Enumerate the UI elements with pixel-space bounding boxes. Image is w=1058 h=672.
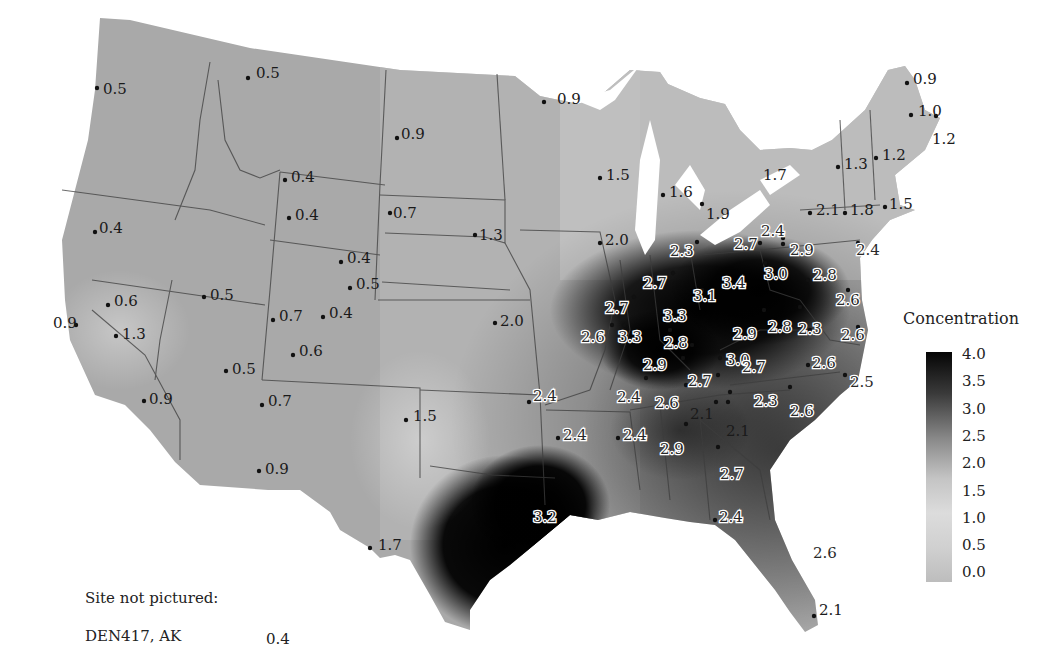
site-value-label: 0.5 [232,360,256,378]
site-value-label: 0.7 [393,204,417,222]
colorbar-tick-label: 3.0 [962,400,986,418]
site-dot [368,546,372,550]
colorbar-tick-label: 0.0 [962,563,986,581]
site-dot [622,323,626,327]
site-value-label: 2.0 [500,312,524,330]
site-value-label: 2.7 [643,274,667,292]
legend-title: Concentration [903,309,1019,328]
site-dot [527,400,531,404]
site-value-label: 1.5 [413,407,437,425]
site-value-label: 2.3 [798,320,822,338]
site-dot [291,353,295,357]
site-value-label: 2.3 [670,242,694,260]
site-dot [493,321,497,325]
site-dot [718,356,722,360]
site-dot [883,205,887,209]
site-value-label: 0.4 [99,219,123,237]
site-not-pictured-value: 0.4 [266,630,290,648]
site-dot [788,385,792,389]
site-dot [202,295,206,299]
site-dot [616,436,620,440]
site-value-label: 2.5 [850,373,874,391]
site-dot [695,240,699,244]
colorbar-tick-label: 2.5 [962,427,986,445]
site-value-label: 1.8 [850,201,874,219]
site-value-label: 3.2 [533,508,557,526]
site-dot [836,165,840,169]
colorbar-tick-label: 1.5 [962,482,986,500]
site-dot [95,86,99,90]
colorbar-tick-label: 0.5 [962,536,986,554]
site-value-label: 1.3 [844,155,868,173]
site-value-label: 2.9 [643,356,667,374]
colorbar [926,352,952,582]
site-value-label: 1.5 [889,195,913,213]
heatmap-fill [0,0,1058,672]
site-value-label: 2.0 [605,231,629,249]
site-dot [114,334,118,338]
site-value-label: 2.4 [533,387,557,405]
site-value-label: 0.4 [329,304,353,322]
site-value-label: 2.6 [812,354,836,372]
site-dot [661,193,665,197]
site-dot [542,100,546,104]
site-value-label: 3.3 [618,328,642,346]
site-value-label: 1.7 [763,166,787,184]
site-dot [287,216,291,220]
site-value-label: 2.7 [734,235,758,253]
site-dot [909,113,913,117]
site-value-label: 2.4 [719,508,743,526]
site-value-label: 2.4 [623,426,647,444]
site-dot [404,418,408,422]
site-dot [260,403,264,407]
site-dot [798,305,802,309]
site-dot [714,400,718,404]
site-value-label: 2.9 [790,241,814,259]
us-map-svg: 0.50.50.90.90.40.40.70.41.30.40.50.60.91… [0,0,1058,672]
site-dot [806,278,810,282]
site-value-label: 2.4 [761,222,785,240]
colorbar-tick-label: 1.0 [962,509,986,527]
site-value-label: 1.3 [479,226,503,244]
site-value-label: 0.9 [557,90,581,108]
site-value-label: 0.9 [265,460,289,478]
site-dot [812,614,816,618]
site-value-label: 0.4 [295,206,319,224]
site-dot [684,422,688,426]
site-dot [598,241,602,245]
site-dot [339,260,343,264]
site-dot [700,202,704,206]
site-dot [556,436,560,440]
site-dot [874,156,878,160]
site-dot [93,230,97,234]
site-value-label: 3.4 [722,274,746,292]
site-dot [610,323,614,327]
site-dot [690,343,694,347]
site-value-label: 1.7 [378,536,402,554]
site-dot [224,369,228,373]
site-value-label: 2.1 [819,601,843,619]
site-dot [762,308,766,312]
site-value-label: 0.4 [347,249,371,267]
site-dot [246,76,250,80]
site-dot [716,445,720,449]
site-value-label: 0.9 [53,314,77,332]
site-dot [681,356,685,360]
site-value-label: 2.6 [836,291,860,309]
site-dot [598,176,602,180]
site-value-label: 1.3 [122,325,146,343]
site-dot [395,136,399,140]
site-value-label: 2.4 [563,426,587,444]
site-value-label: 3.3 [663,307,687,325]
site-value-label: 0.9 [401,125,425,143]
site-value-label: 1.2 [932,130,956,148]
site-not-pictured-name: DEN417, AK [85,627,181,645]
site-value-label: 2.6 [581,328,605,346]
site-value-label: 0.6 [114,292,138,310]
site-value-label: 3.1 [693,287,717,305]
site-value-label: 2.9 [733,325,757,343]
site-value-label: 0.9 [149,390,173,408]
site-dot [713,518,717,522]
site-value-label: 1.0 [918,102,942,120]
site-dot [271,318,275,322]
